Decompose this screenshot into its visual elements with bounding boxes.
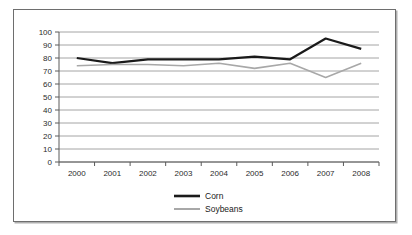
y-axis-tick-label: 80 bbox=[43, 54, 52, 63]
series-line-corn bbox=[77, 39, 361, 64]
y-axis-tick-label: 90 bbox=[43, 41, 52, 50]
chart-legend: CornSoybeans bbox=[174, 191, 243, 214]
y-axis-tick-label: 100 bbox=[39, 28, 53, 37]
y-axis-tick-label: 30 bbox=[43, 119, 52, 128]
x-axis-tick-label: 2002 bbox=[139, 169, 157, 178]
y-axis-tick-label: 70 bbox=[43, 67, 52, 76]
x-axis-tick-label: 2007 bbox=[317, 169, 335, 178]
legend-item-corn[interactable]: Corn bbox=[174, 191, 224, 201]
x-axis-tick-label: 2001 bbox=[103, 169, 121, 178]
y-axis-tick-label: 20 bbox=[43, 132, 52, 141]
series-line-soybeans bbox=[77, 63, 361, 77]
y-axis-tick-label: 60 bbox=[43, 80, 52, 89]
x-axis-tick-label: 2004 bbox=[210, 169, 228, 178]
chart-plot-container: 0102030405060708090100200020012002200320… bbox=[14, 10, 395, 221]
chart-frame: 0102030405060708090100200020012002200320… bbox=[13, 9, 396, 222]
x-axis-ticks: 200020012002200320042005200620072008 bbox=[59, 162, 379, 178]
legend-item-soybeans[interactable]: Soybeans bbox=[174, 204, 243, 214]
x-axis-tick-label: 2008 bbox=[352, 169, 370, 178]
legend-label: Soybeans bbox=[205, 204, 243, 214]
y-axis-tick-label: 0 bbox=[48, 158, 53, 167]
y-axis-tick-label: 10 bbox=[43, 145, 52, 154]
x-axis-tick-label: 2006 bbox=[281, 169, 299, 178]
y-gridlines: 0102030405060708090100 bbox=[39, 28, 379, 167]
legend-label: Corn bbox=[205, 191, 224, 201]
x-axis-tick-label: 2005 bbox=[246, 169, 264, 178]
y-axis-tick-label: 50 bbox=[43, 93, 52, 102]
x-axis-tick-label: 2003 bbox=[175, 169, 193, 178]
line-chart: 0102030405060708090100200020012002200320… bbox=[14, 10, 397, 223]
x-axis-tick-label: 2000 bbox=[68, 169, 86, 178]
y-axis-tick-label: 40 bbox=[43, 106, 52, 115]
